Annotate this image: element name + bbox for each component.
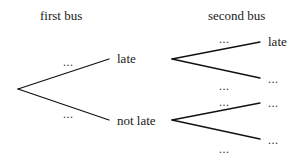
branch-second-notlate-first	[172, 103, 260, 120]
header-second-bus: second bus	[208, 9, 265, 22]
prob-first-late: ...	[63, 56, 74, 68]
branch-second-late-late	[172, 42, 260, 59]
outcome-second-notlate-second: ...	[268, 134, 279, 146]
outcome-first-not-late: not late	[117, 114, 156, 127]
prob-second-notlate-first: ...	[219, 96, 230, 108]
prob-second-notlate-second: ...	[219, 143, 230, 153]
prob-first-not-late: ...	[63, 108, 74, 120]
outcome-second-late-late: late	[268, 35, 287, 48]
outcome-second-late-other: ...	[268, 73, 279, 85]
tree-diagram: first bus second bus ... ... late not la…	[0, 0, 304, 153]
outcome-second-notlate-first: ...	[268, 97, 279, 109]
outcome-first-late: late	[117, 52, 136, 65]
header-first-bus: first bus	[40, 9, 82, 22]
prob-second-late-late: ...	[219, 33, 230, 45]
branch-second-late-other	[172, 59, 260, 78]
branch-second-notlate-second	[172, 120, 260, 139]
prob-second-late-other: ...	[219, 80, 230, 92]
